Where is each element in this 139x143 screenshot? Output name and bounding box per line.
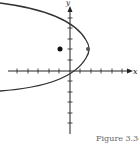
x-axis-label: x <box>133 67 138 76</box>
parabola-curve <box>0 3 89 91</box>
figure-caption: Figure 3.36 <box>96 134 139 143</box>
y-axis-label: y <box>65 0 71 7</box>
focus-point <box>58 47 63 52</box>
graph: x y <box>0 0 139 143</box>
vertex-point <box>86 47 90 51</box>
